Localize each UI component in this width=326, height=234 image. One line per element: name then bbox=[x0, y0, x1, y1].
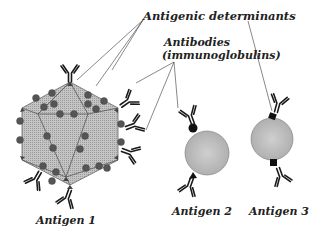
antigen-antibody-diagram bbox=[0, 0, 326, 234]
label-antibodies: Antibodies bbox=[164, 37, 230, 49]
label-immunoglobulins: (immunoglobulins) bbox=[162, 50, 281, 62]
antigen-2 bbox=[178, 105, 229, 197]
label-antigen-2: Antigen 2 bbox=[172, 206, 232, 218]
label-antigen-1: Antigen 1 bbox=[36, 215, 96, 227]
antigen-3 bbox=[251, 93, 293, 187]
antigen-1-virus bbox=[17, 82, 125, 189]
label-antigen-3: Antigen 3 bbox=[249, 206, 309, 218]
label-antigenic-determinants: Antigenic determinants bbox=[143, 10, 296, 23]
